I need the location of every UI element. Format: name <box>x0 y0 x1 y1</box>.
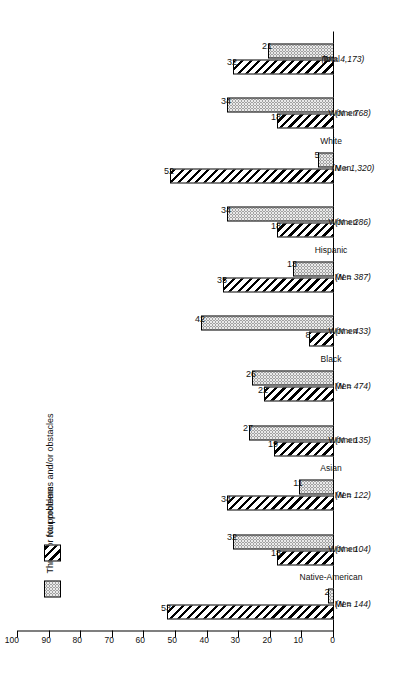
category-tick-label: Women(N = 104) <box>338 522 358 577</box>
axis-tick-label: 70 <box>88 635 114 643</box>
category-tick-label: Men(N = 474) <box>338 358 358 413</box>
bar-value-label: 18 <box>271 112 281 121</box>
bar-value-label: 34 <box>221 205 231 214</box>
bar-value-label: 11 <box>294 478 303 487</box>
value-axis-line <box>18 630 334 631</box>
bar-three-or-four-problems: 42 <box>201 316 334 331</box>
axis-tick-label: 100 <box>0 635 19 643</box>
axis-tick-label: 0 <box>309 635 335 643</box>
bar-no-problems: 53 <box>167 604 334 619</box>
category-tick-label: Men(N = 144) <box>338 576 358 631</box>
axis-tick-label: 10 <box>277 635 303 643</box>
group-header-label: Total <box>326 4 336 113</box>
bar-value-label: 35 <box>217 275 227 284</box>
group-header-label: Black <box>326 304 336 413</box>
bar-value-label: 5 <box>315 150 320 159</box>
group-header-text: Asian <box>276 462 385 472</box>
bar-value-label: 34 <box>221 494 231 503</box>
category-tick-label: Men(N = 122) <box>338 467 358 522</box>
bar-value-label: 42 <box>195 314 205 323</box>
bar-value-label: 52 <box>164 166 174 175</box>
axis-tick-label: 80 <box>56 635 82 643</box>
category-tick-label: Women(N = 135) <box>338 413 358 468</box>
category-tick-label: Men(N = 387) <box>338 249 358 304</box>
group-header-text: Total <box>276 53 385 63</box>
bar-value-label: 26 <box>246 369 256 378</box>
bar-value-label: 53 <box>161 603 171 612</box>
axis-tick-label: 90 <box>25 635 51 643</box>
axis-tick-label: 50 <box>151 635 177 643</box>
bar-value-label: 8 <box>305 330 310 339</box>
group-header-text: Black <box>276 353 385 363</box>
category-tick-label: Women(N = 433) <box>338 304 358 359</box>
category-tick-label: Women(N = 286) <box>338 195 358 250</box>
bar-value-label: 19 <box>268 439 278 448</box>
bar-value-label: 13 <box>287 259 297 268</box>
group-header-text: White <box>276 135 385 145</box>
axis-tick-label: 20 <box>246 635 272 643</box>
axis-tick-label: 40 <box>183 635 209 643</box>
category-tick-label: Women(N = 768) <box>338 86 358 141</box>
bar-value-label: 27 <box>243 423 253 432</box>
bar-value-label: 21 <box>262 41 272 50</box>
group-header-label: Hispanic <box>326 195 336 304</box>
category-tick-label: Men(N = 1,320) <box>338 140 358 195</box>
chart-canvas: Three or four problems and/or obstaclesN… <box>0 0 402 693</box>
bar-no-problems: 52 <box>170 168 334 183</box>
bar-value-label: 18 <box>271 548 281 557</box>
bar-value-label: 34 <box>221 96 231 105</box>
group-header-text: Native-American <box>276 571 385 581</box>
bar-value-label: 32 <box>227 532 237 541</box>
axis-tick-label: 30 <box>214 635 240 643</box>
group-header-text: Hispanic <box>276 244 385 254</box>
group-header-label: Asian <box>326 413 336 522</box>
chart-rotation-wrapper: Three or four problems and/or obstaclesN… <box>0 0 402 693</box>
bar-value-label: 22 <box>258 385 268 394</box>
axis-tick-label: 60 <box>119 635 145 643</box>
bar-value-label: 32 <box>227 57 237 66</box>
bar-value-label: 18 <box>271 221 281 230</box>
plot-area: 0102030405060708090100 53218323411192722… <box>18 31 334 631</box>
group-header-label: Native-American <box>326 522 336 631</box>
